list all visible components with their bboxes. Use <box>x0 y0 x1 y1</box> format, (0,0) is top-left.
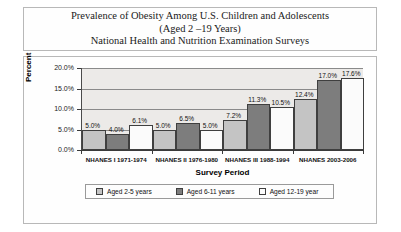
chart-page: Prevalence of Obesity Among U.S. Childre… <box>0 0 401 232</box>
bar <box>176 123 200 150</box>
chart-title-line-2: (Aged 2 –19 Years) <box>159 23 241 36</box>
bar-value-label: 4.0% <box>105 126 129 133</box>
bar <box>82 130 106 151</box>
x-axis-group-tick <box>222 150 223 154</box>
chart-title-card: Prevalence of Obesity Among U.S. Childre… <box>23 7 377 51</box>
x-axis-group-tick <box>293 150 294 154</box>
bar-value-label: 17.6% <box>340 70 364 77</box>
bar-value-label: 12.4% <box>293 91 317 98</box>
bar <box>223 120 247 150</box>
chart-title-line-1: Prevalence of Obesity Among U.S. Childre… <box>71 10 329 23</box>
bar-value-label: 5.0% <box>199 122 223 129</box>
bar <box>153 130 177 151</box>
y-axis-tick-label: 10.0% <box>54 105 74 112</box>
y-axis-tick-label: 5.0% <box>58 126 74 133</box>
y-axis-tick-label: 20.0% <box>54 64 74 71</box>
legend-label: Aged 2-5 years <box>107 188 152 195</box>
bar <box>247 104 271 150</box>
legend-label: Aged 6-11 years <box>187 188 235 195</box>
bar <box>294 99 318 150</box>
bar-series-container <box>82 68 363 150</box>
bar <box>129 125 153 150</box>
x-axis-group-tick <box>152 150 153 154</box>
bar <box>341 78 365 150</box>
legend-item[interactable]: Aged 12-19 year <box>259 188 319 195</box>
bar-value-label: 17.0% <box>316 72 340 79</box>
bar-value-label: 5.0% <box>152 122 176 129</box>
legend-swatch-icon <box>259 188 266 195</box>
bar-value-label: 6.1% <box>128 117 152 124</box>
bar-value-label: 5.0% <box>81 122 105 129</box>
x-axis-title: Survey Period <box>81 168 364 177</box>
x-axis-group-tick <box>363 150 364 154</box>
bar-value-label: 11.3% <box>246 96 270 103</box>
bar <box>106 134 130 150</box>
y-axis-tick-label: 15.0% <box>54 85 74 92</box>
y-axis-tick-label: 0.0% <box>58 146 74 153</box>
bar <box>200 130 224 151</box>
legend-item[interactable]: Aged 6-11 years <box>176 188 235 195</box>
plot-area <box>81 68 363 150</box>
bar-value-label: 7.2% <box>222 112 246 119</box>
x-axis-group-tick <box>81 150 82 154</box>
x-axis-category-label: NHANES 2003-2006 <box>285 156 372 163</box>
bar <box>270 107 294 150</box>
y-axis-title: Percent <box>24 53 33 82</box>
legend-swatch-icon <box>176 188 183 195</box>
chart-legend: Aged 2-5 yearsAged 6-11 yearsAged 12-19 … <box>85 184 334 199</box>
legend-swatch-icon <box>96 188 103 195</box>
bar-value-label: 10.5% <box>269 99 293 106</box>
legend-label: Aged 12-19 year <box>270 188 319 195</box>
bar <box>317 80 341 150</box>
chart-title-line-3: National Health and Nutrition Examinatio… <box>91 35 309 48</box>
bar-value-label: 6.5% <box>175 115 199 122</box>
chart-card: Percent 20.0%15.0%10.0%5.0%0.0% 5.0%4.0%… <box>23 56 377 224</box>
chart-inner: Percent 20.0%15.0%10.0%5.0%0.0% 5.0%4.0%… <box>28 60 373 220</box>
legend-item[interactable]: Aged 2-5 years <box>96 188 152 195</box>
